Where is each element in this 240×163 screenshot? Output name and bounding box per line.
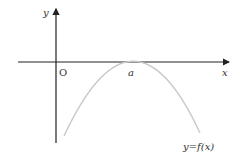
vertex-label: a bbox=[128, 67, 134, 78]
y-axis-label: y bbox=[42, 7, 49, 18]
x-axis-label: x bbox=[222, 67, 228, 78]
graph: y O a x y=f(x) bbox=[0, 0, 240, 163]
function-label: y=f(x) bbox=[182, 141, 214, 152]
origin-label: O bbox=[59, 67, 67, 78]
